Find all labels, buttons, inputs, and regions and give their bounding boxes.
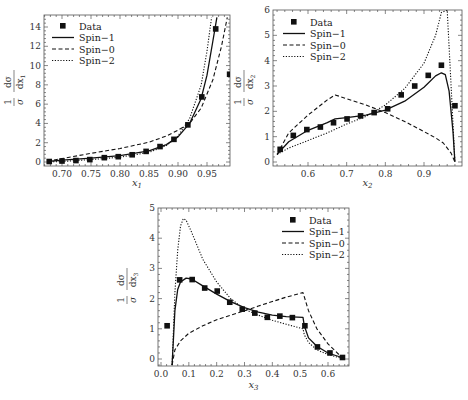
plot-area [277, 10, 458, 162]
legend-label: Spin−2 [310, 51, 346, 62]
svg-text:dσ: dσ [3, 76, 13, 88]
x-tick-label: 0.2 [210, 369, 224, 379]
y-tick-label: 3 [149, 263, 155, 273]
legend-item-spin1: Spin−1 [52, 32, 115, 43]
y-tick-label: 2 [35, 138, 41, 148]
legend-item-data: Data [60, 21, 102, 32]
x-tick-label: 0.6 [301, 169, 316, 179]
x-tick-label: 0.95 [197, 169, 217, 179]
y-axis: 0123456 [264, 5, 462, 167]
figure-canvas: 0.700.750.800.850.900.9502468101214x11σd… [0, 0, 468, 400]
svg-text:1: 1 [3, 99, 13, 105]
legend-item-data: Data [290, 215, 332, 226]
data-point [412, 83, 418, 89]
legend: DataSpin−1Spin−0Spin−2 [52, 21, 115, 67]
x-tick-label: 0.5 [293, 369, 308, 379]
y-axis-label: 1σdσdx2 [233, 70, 256, 106]
series-line-spin-0 [277, 95, 455, 162]
svg-text:dσ: dσ [116, 274, 126, 286]
x-tick-label: 0.8 [378, 169, 393, 179]
legend-item-data: Data [291, 17, 333, 28]
svg-text:σ: σ [15, 98, 25, 105]
y-tick-label: 5 [264, 30, 270, 40]
y-tick-label: 8 [35, 80, 41, 90]
legend-label: Spin−2 [309, 249, 345, 260]
chart-x2: 0.60.70.80.90123456x21σdσdx2DataSpin−1Sp… [233, 5, 462, 190]
series-line-spin-2 [48, 17, 212, 162]
y-tick-label: 0 [149, 354, 155, 364]
x-tick-label: 0.0 [154, 369, 169, 379]
data-point [227, 71, 233, 77]
y-tick-label: 5 [149, 203, 155, 213]
legend-item-spin0: Spin−0 [52, 44, 115, 55]
legend: DataSpin−1Spin−0Spin−2 [283, 17, 346, 63]
svg-text:σ: σ [128, 296, 138, 303]
data-point [452, 103, 458, 109]
x-tick-label: 0.70 [52, 169, 72, 179]
series-line-spin-1 [48, 17, 217, 161]
series-line-spin-0 [48, 17, 228, 161]
legend-label: Spin−1 [310, 28, 346, 39]
x-tick-label: 0.6 [321, 369, 336, 379]
chart-x1: 0.700.750.800.850.900.9502468101214x11σd… [3, 15, 232, 190]
y-tick-label: 1 [149, 324, 155, 334]
y-tick-label: 14 [30, 22, 42, 32]
x-axis-label: x2 [362, 177, 373, 190]
y-axis-label: 1σdσdx1 [3, 70, 26, 106]
y-tick-label: 2 [264, 106, 270, 116]
y-tick-label: 0 [35, 157, 41, 167]
x-tick-label: 0.7 [340, 169, 355, 179]
svg-text:σ: σ [245, 98, 255, 105]
x-tick-label: 0.90 [168, 169, 188, 179]
legend-label: Spin−0 [79, 44, 115, 55]
square-marker-icon [290, 217, 296, 223]
x-tick-label: 0.9 [417, 169, 432, 179]
x-tick-label: 0.80 [110, 169, 130, 179]
y-tick-label: 0 [264, 157, 270, 167]
legend-item-spin2: Spin−2 [52, 55, 115, 66]
x-tick-label: 0.85 [139, 169, 159, 179]
y-axis: 02468101214 [30, 19, 230, 167]
series-line-spin-1 [277, 73, 455, 162]
legend-item-spin0: Spin−0 [282, 238, 345, 249]
legend-item-spin1: Spin−1 [283, 28, 346, 39]
legend-label: Data [309, 215, 332, 226]
svg-text:dx2: dx2 [245, 74, 256, 89]
y-tick-label: 10 [30, 61, 42, 71]
y-tick-label: 2 [149, 294, 155, 304]
y-tick-label: 1 [264, 132, 270, 142]
x-tick-label: 0.75 [81, 169, 101, 179]
y-tick-label: 4 [264, 56, 270, 66]
legend-item-spin0: Spin−0 [283, 40, 346, 51]
x-tick-label: 0.3 [237, 369, 252, 379]
data-point [164, 323, 170, 329]
svg-text:1: 1 [116, 297, 126, 303]
x-axis-label: x3 [248, 379, 259, 392]
legend: DataSpin−1Spin−0Spin−2 [282, 215, 345, 261]
y-tick-label: 12 [30, 41, 41, 51]
series-line-spin-1 [172, 278, 342, 365]
y-axis-label: 1σdσdx3 [116, 268, 139, 304]
svg-text:1: 1 [233, 99, 243, 105]
square-marker-icon [60, 23, 66, 29]
y-tick-label: 6 [264, 5, 270, 15]
legend-label: Data [310, 17, 333, 28]
legend-item-spin2: Spin−2 [282, 249, 345, 260]
legend-label: Spin−2 [79, 55, 115, 66]
svg-text:dx1: dx1 [15, 75, 26, 90]
y-tick-label: 6 [35, 99, 41, 109]
chart-x3: 0.00.10.20.30.40.50.6012345x31σdσdx3Data… [116, 203, 349, 392]
legend-label: Spin−0 [310, 40, 346, 51]
series-line-spin-0 [172, 293, 342, 365]
legend-label: Data [79, 21, 102, 32]
svg-text:dσ: dσ [233, 76, 243, 88]
x-tick-label: 0.1 [182, 369, 196, 379]
legend-label: Spin−1 [309, 226, 345, 237]
data-point [439, 62, 445, 68]
legend-label: Spin−0 [309, 238, 345, 249]
series-line-spin-2 [277, 10, 455, 162]
legend-item-spin1: Spin−1 [282, 226, 345, 237]
x-axis: 0.60.70.80.9 [277, 10, 455, 179]
data-point [425, 73, 431, 79]
legend-label: Spin−1 [79, 32, 115, 43]
